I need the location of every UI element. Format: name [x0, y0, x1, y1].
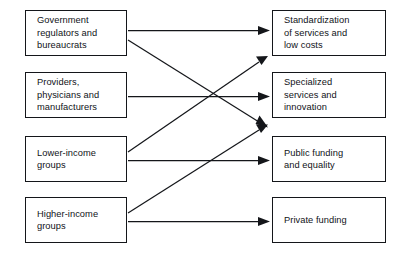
node-providers-physicians-label: Providers, physicians and manufacturers — [37, 76, 99, 113]
node-public-funding-label: Public funding and equality — [284, 147, 343, 172]
node-standardization[interactable]: Standardization of services and low cost… — [272, 10, 386, 56]
connector-lower-income-to-public-funding — [128, 156, 270, 165]
node-standardization-label: Standardization of services and low cost… — [284, 14, 349, 51]
flow-diagram: Government regulators and bureaucrats Pr… — [0, 0, 399, 256]
connector-government-to-public-funding — [128, 40, 268, 128]
connector-higher-income-to-private-funding — [128, 217, 270, 226]
connector-providers-to-specialized — [128, 92, 270, 101]
node-providers-physicians[interactable]: Providers, physicians and manufacturers — [25, 72, 127, 118]
node-lower-income-groups[interactable]: Lower-income groups — [25, 136, 127, 182]
node-higher-income-groups[interactable]: Higher-income groups — [25, 197, 127, 243]
node-public-funding[interactable]: Public funding and equality — [272, 136, 386, 182]
connector-government-to-standardization — [128, 26, 270, 35]
node-specialized-services[interactable]: Specialized services and innovation — [272, 72, 386, 118]
node-private-funding-label: Private funding — [284, 214, 347, 226]
node-government-regulators[interactable]: Government regulators and bureaucrats — [25, 10, 127, 56]
node-private-funding[interactable]: Private funding — [272, 197, 386, 243]
node-higher-income-groups-label: Higher-income groups — [37, 208, 98, 233]
node-lower-income-groups-label: Lower-income groups — [37, 147, 96, 172]
node-specialized-services-label: Specialized services and innovation — [284, 76, 337, 113]
node-government-regulators-label: Government regulators and bureaucrats — [37, 14, 97, 51]
